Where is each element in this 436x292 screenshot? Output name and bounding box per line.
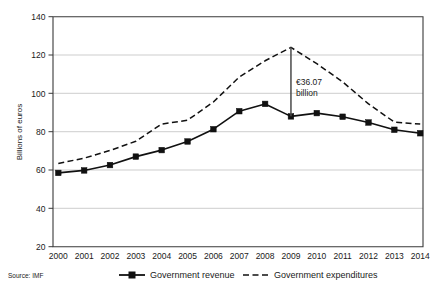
x-tick-label: 2007 <box>230 251 249 261</box>
data-point-marker <box>340 114 346 120</box>
data-point-marker <box>236 108 242 114</box>
y-axis-ticks <box>49 17 54 247</box>
y-tick-label: 120 <box>31 50 45 60</box>
chart-legend: Government revenue Government expenditur… <box>119 270 378 280</box>
line-chart: 140 120 100 80 60 40 20 Billions of euro… <box>0 0 436 292</box>
x-tick-label: 2002 <box>101 251 120 261</box>
data-point-marker <box>185 139 191 145</box>
y-axis-title: Billions of euros <box>15 104 24 160</box>
source-note: Source: IMF <box>8 272 43 279</box>
y-tick-label: 40 <box>36 204 46 214</box>
x-tick-label: 2009 <box>282 251 301 261</box>
x-tick-label: 2008 <box>256 251 275 261</box>
data-point-marker <box>314 110 320 116</box>
x-tick-label: 2011 <box>334 251 353 261</box>
chart-figure: 140 120 100 80 60 40 20 Billions of euro… <box>0 0 436 292</box>
series-line-expenditures <box>58 47 420 163</box>
annotation-line1: €36.07 <box>296 77 322 87</box>
x-tick-label: 2014 <box>411 251 430 261</box>
legend-label-revenue: Government revenue <box>150 270 235 280</box>
x-tick-label: 2013 <box>385 251 404 261</box>
x-tick-label: 2004 <box>152 251 171 261</box>
x-tick-label: 2012 <box>359 251 378 261</box>
data-point-marker <box>262 101 268 107</box>
data-point-marker <box>211 126 217 132</box>
y-tick-label: 20 <box>36 242 46 252</box>
data-point-marker <box>133 154 139 160</box>
data-point-marker <box>81 168 87 174</box>
y-tick-label: 140 <box>31 12 45 22</box>
legend-label-expenditures: Government expenditures <box>274 270 378 280</box>
data-series-layer <box>56 47 424 175</box>
data-point-marker <box>56 170 62 176</box>
data-point-marker <box>417 130 423 136</box>
x-axis-tick-labels: 2000 2001 2002 2003 2004 2005 2006 2007 … <box>49 251 430 261</box>
annotation-line2: billion <box>296 88 318 98</box>
x-tick-label: 2006 <box>204 251 223 261</box>
y-tick-label: 100 <box>31 89 45 99</box>
x-tick-label: 2010 <box>307 251 326 261</box>
data-point-marker <box>366 120 372 126</box>
y-tick-label: 60 <box>36 165 46 175</box>
y-axis-tick-labels: 140 120 100 80 60 40 20 <box>31 12 45 252</box>
x-tick-label: 2001 <box>75 251 94 261</box>
legend-marker-revenue <box>129 272 136 279</box>
x-tick-label: 2003 <box>126 251 145 261</box>
data-point-marker <box>392 127 398 133</box>
gridlines <box>53 55 423 208</box>
x-tick-label: 2005 <box>178 251 197 261</box>
data-point-marker <box>107 162 113 168</box>
y-tick-label: 80 <box>36 127 46 137</box>
x-tick-label: 2000 <box>49 251 68 261</box>
data-point-marker <box>159 147 165 153</box>
